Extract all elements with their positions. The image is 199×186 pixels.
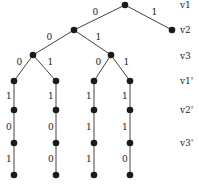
edge-label: 1 <box>122 122 128 132</box>
tree-node <box>11 107 18 114</box>
tree-edge <box>74 5 125 30</box>
level-label-v3-prime: v3' <box>179 138 193 148</box>
edge-label: 1 <box>124 57 130 67</box>
edge-label: 0 <box>48 122 54 132</box>
tree-node <box>11 140 18 147</box>
level-label-v3: v3 <box>179 51 191 61</box>
level-label-v1: v1 <box>179 0 191 10</box>
level-label-v2-prime: v2' <box>179 105 193 115</box>
tree-node <box>127 107 134 114</box>
edge-label: 0 <box>6 122 12 132</box>
tree-edge <box>74 30 111 55</box>
level-label-v2: v2 <box>179 25 191 35</box>
tree-node <box>127 140 134 147</box>
tree-node <box>169 27 176 34</box>
tree-node <box>53 172 60 179</box>
tree-node <box>127 78 134 85</box>
edge-label: 0 <box>93 7 99 17</box>
level-labels: v1 v2 v3 v1' v2' v3' <box>179 0 193 148</box>
edge-label: 0 <box>47 32 53 42</box>
tree-node <box>122 2 129 9</box>
edge-label: 1 <box>86 122 92 132</box>
edge-label: 1 <box>6 154 12 164</box>
edge-label: 0 <box>96 57 102 67</box>
tree-node <box>127 172 134 179</box>
edge-label: 0 <box>17 57 23 67</box>
tree-node <box>11 172 18 179</box>
tree-node <box>91 172 98 179</box>
tree-node <box>91 140 98 147</box>
edge-label: 1 <box>152 7 158 17</box>
tree-node <box>53 78 60 85</box>
edge-label: 1 <box>86 154 92 164</box>
edge-label: 1 <box>48 57 54 67</box>
tree-nodes <box>11 2 176 179</box>
edge-label: 1 <box>48 91 54 101</box>
edge-label: 0 <box>48 154 54 164</box>
tree-edge <box>125 5 172 30</box>
tree-node <box>11 78 18 85</box>
tree-node <box>71 27 78 34</box>
edge-label: 1 <box>96 32 102 42</box>
edge-label: 1 <box>6 91 12 101</box>
tree-node <box>91 78 98 85</box>
edge-label: 1 <box>86 91 92 101</box>
tree-node <box>91 107 98 114</box>
edge-labels: 01010101111100111010 <box>6 7 157 165</box>
tree-edge <box>33 30 74 55</box>
edge-label: 1 <box>122 91 128 101</box>
edge-label: 0 <box>122 154 128 164</box>
level-label-v1-prime: v1' <box>179 76 193 86</box>
binary-tree-diagram: 01010101111100111010 v1 v2 v3 v1' v2' v3… <box>0 0 199 186</box>
tree-node <box>53 140 60 147</box>
tree-edges <box>14 5 172 175</box>
tree-node <box>30 52 37 59</box>
tree-node <box>108 52 115 59</box>
tree-node <box>53 107 60 114</box>
